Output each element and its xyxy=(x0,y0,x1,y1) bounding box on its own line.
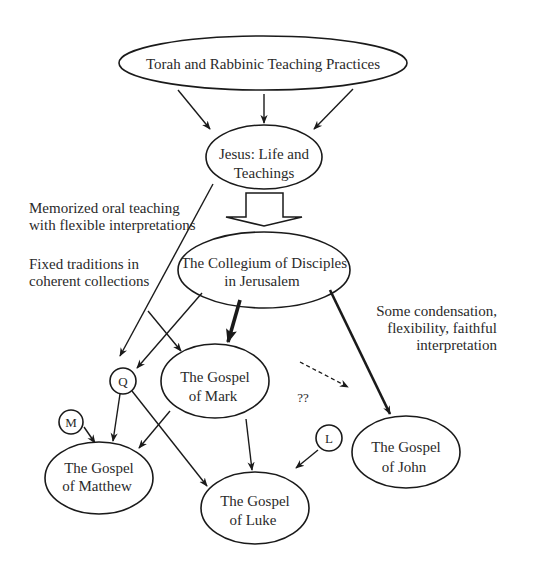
node-john: The Gospel of John xyxy=(352,416,460,488)
node-m: M xyxy=(59,410,83,434)
annotation-condensation-line3: interpretation xyxy=(416,337,497,353)
node-m-label: M xyxy=(65,415,77,430)
edge-mark-luke xyxy=(246,419,252,470)
node-matthew-line2: of Matthew xyxy=(62,478,132,494)
node-luke-line2: of Luke xyxy=(229,512,276,528)
gospel-transmission-diagram: Torah and Rabbinic Teaching Practices Je… xyxy=(0,0,550,574)
annotation-fixed-line1: Fixed traditions in xyxy=(29,256,139,272)
node-torah: Torah and Rabbinic Teaching Practices xyxy=(119,36,407,90)
node-luke-line1: The Gospel xyxy=(220,493,290,509)
node-john-line1: The Gospel xyxy=(371,439,441,455)
node-torah-label: Torah and Rabbinic Teaching Practices xyxy=(146,56,380,72)
node-luke: The Gospel of Luke xyxy=(201,472,309,544)
edge-m-matthew xyxy=(84,427,95,443)
uncertain-label: ?? xyxy=(297,390,309,405)
node-matthew: The Gospel of Matthew xyxy=(45,442,153,514)
edge-q-matthew xyxy=(113,394,120,441)
annotation-condensation-line1: Some condensation, xyxy=(376,303,497,319)
node-matthew-line1: The Gospel xyxy=(64,460,134,476)
edge-torah-jesus-right xyxy=(314,89,353,129)
node-collegium-line1: The Collegium of Disciples xyxy=(181,255,347,271)
node-l: L xyxy=(316,425,342,451)
node-mark-line2: of Mark xyxy=(189,388,238,404)
annotation-fixed-traditions: Fixed traditions in coherent collections xyxy=(29,256,150,289)
annotation-fixed-line2: coherent collections xyxy=(29,273,150,289)
edge-uncertain-dashed xyxy=(300,362,348,387)
annotation-oral-line2: with flexible interpretations xyxy=(29,217,196,233)
node-collegium: The Collegium of Disciples in Jerusalem xyxy=(178,232,350,308)
edge-mark-matthew xyxy=(139,411,170,448)
annotation-oral-teaching: Memorized oral teaching with flexible in… xyxy=(29,200,196,233)
node-mark-line1: The Gospel xyxy=(180,369,250,385)
node-john-line2: of John xyxy=(382,459,427,475)
node-jesus-line1: Jesus: Life and xyxy=(219,146,309,162)
edge-torah-jesus-left xyxy=(178,90,210,129)
node-jesus: Jesus: Life and Teachings xyxy=(206,125,322,189)
node-q: Q xyxy=(110,368,136,394)
annotation-oral-line1: Memorized oral teaching xyxy=(29,200,180,216)
node-jesus-line2: Teachings xyxy=(234,165,295,181)
node-q-label: Q xyxy=(118,374,128,389)
annotation-condensation: Some condensation, flexibility, faithful… xyxy=(376,303,497,353)
node-collegium-line2: in Jerusalem xyxy=(224,273,300,289)
annotation-condensation-line2: flexibility, faithful xyxy=(387,320,497,336)
node-mark: The Gospel of Mark xyxy=(161,344,269,418)
edge-fixed-traditions-mark xyxy=(148,311,181,351)
node-l-label: L xyxy=(325,431,333,446)
hollow-arrow-icon xyxy=(226,193,302,226)
edge-l-luke xyxy=(296,450,318,468)
